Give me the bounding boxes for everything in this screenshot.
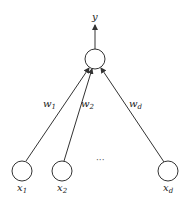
edge-x1 [26, 68, 89, 161]
weight-label-2: w2 [81, 98, 95, 111]
perceptron-diagram: y w1 w2 wd ··· x1 x2 xd [0, 0, 190, 203]
ellipsis: ··· [96, 155, 105, 165]
input-node-1 [12, 161, 32, 181]
edge-x2 [64, 69, 92, 161]
edge-xd [101, 68, 164, 162]
weight-label-d: wd [129, 98, 143, 111]
weight-label-1: w1 [43, 98, 56, 111]
input-node-d [158, 161, 178, 181]
output-label: y [91, 11, 98, 22]
input-label-1: x1 [17, 182, 27, 195]
input-node-2 [52, 161, 72, 181]
input-label-2: x2 [57, 182, 68, 195]
input-label-d: xd [163, 182, 174, 195]
output-node [85, 49, 105, 69]
